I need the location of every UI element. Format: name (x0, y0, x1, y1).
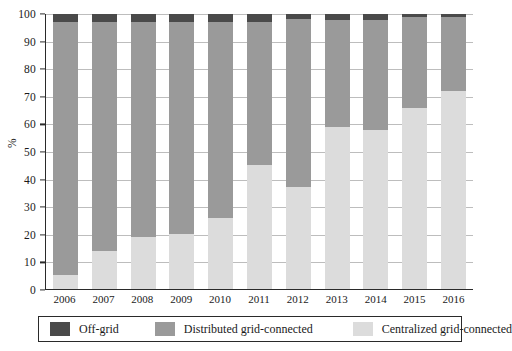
bar-column-2008[interactable] (131, 14, 156, 289)
y-tick-label: 70 (24, 91, 36, 103)
bar-segment (247, 14, 272, 22)
bar-segment (363, 20, 388, 130)
x-tick-label: 2009 (169, 293, 194, 305)
legend-swatch (353, 322, 373, 336)
y-tick-label: 0 (30, 284, 36, 296)
bar-segment (208, 14, 233, 22)
bar-segment (402, 17, 427, 108)
bar-column-2013[interactable] (325, 14, 350, 289)
x-tick-label: 2013 (324, 293, 349, 305)
legend-item[interactable]: Off-grid (50, 322, 119, 337)
y-tick-label: 50 (24, 146, 36, 158)
y-axis-ticks: 0102030405060708090100 (0, 14, 45, 290)
legend-item[interactable]: Centralized grid-connected (353, 322, 512, 337)
bar-segment (131, 22, 156, 237)
bar-column-2006[interactable] (53, 14, 78, 289)
plot-area (45, 14, 473, 290)
bar-segment (208, 22, 233, 217)
x-tick-label: 2007 (91, 293, 116, 305)
y-tick-label: 20 (24, 229, 36, 241)
bar-segment (286, 187, 311, 289)
bar-column-2009[interactable] (169, 14, 194, 289)
bar-segment (169, 14, 194, 22)
bar-segment (286, 19, 311, 187)
bar-column-2012[interactable] (286, 14, 311, 289)
bar-column-2007[interactable] (92, 14, 117, 289)
bar-group (46, 14, 473, 289)
bar-segment (325, 20, 350, 127)
bar-segment (131, 14, 156, 22)
x-tick-label: 2015 (402, 293, 427, 305)
legend-swatch (50, 322, 70, 336)
bar-segment (363, 130, 388, 290)
bar-segment (441, 17, 466, 91)
bar-segment (131, 237, 156, 289)
legend-label: Off-grid (79, 322, 119, 337)
bar-segment (208, 218, 233, 290)
bar-segment (441, 91, 466, 289)
bar-segment (325, 127, 350, 289)
bar-segment (53, 275, 78, 289)
x-tick-label: 2014 (363, 293, 388, 305)
y-tick-label: 10 (24, 256, 36, 268)
bar-segment (92, 14, 117, 22)
legend-label: Centralized grid-connected (382, 322, 512, 337)
y-tick-label: 30 (24, 201, 36, 213)
x-tick-label: 2012 (285, 293, 310, 305)
y-tick-label: 40 (24, 174, 36, 186)
bar-column-2010[interactable] (208, 14, 233, 289)
bar-segment (53, 22, 78, 275)
bar-column-2016[interactable] (441, 14, 466, 289)
x-tick-label: 2006 (52, 293, 77, 305)
bar-column-2014[interactable] (363, 14, 388, 289)
y-tick-label: 100 (18, 8, 36, 20)
legend-label: Distributed grid-connected (184, 322, 313, 337)
y-tick-label: 80 (24, 63, 36, 75)
bar-segment (169, 22, 194, 234)
legend-swatch (155, 322, 175, 336)
bar-segment (92, 22, 117, 250)
bar-segment (402, 108, 427, 290)
chart-legend: Off-gridDistributed grid-connectedCentra… (38, 316, 462, 342)
x-axis-labels: 2006200720082009201020112012201320142015… (45, 293, 473, 305)
bar-segment (247, 165, 272, 289)
x-tick-label: 2008 (130, 293, 155, 305)
bar-segment (169, 234, 194, 289)
bar-column-2015[interactable] (402, 14, 427, 289)
x-tick-label: 2010 (208, 293, 233, 305)
bar-segment (92, 251, 117, 289)
x-tick-label: 2011 (246, 293, 271, 305)
y-tick-label: 90 (24, 36, 36, 48)
bar-column-2011[interactable] (247, 14, 272, 289)
bar-segment (247, 22, 272, 165)
bar-segment (53, 14, 78, 22)
legend-item[interactable]: Distributed grid-connected (155, 322, 313, 337)
y-tick-label: 60 (24, 118, 36, 130)
x-tick-label: 2016 (441, 293, 466, 305)
